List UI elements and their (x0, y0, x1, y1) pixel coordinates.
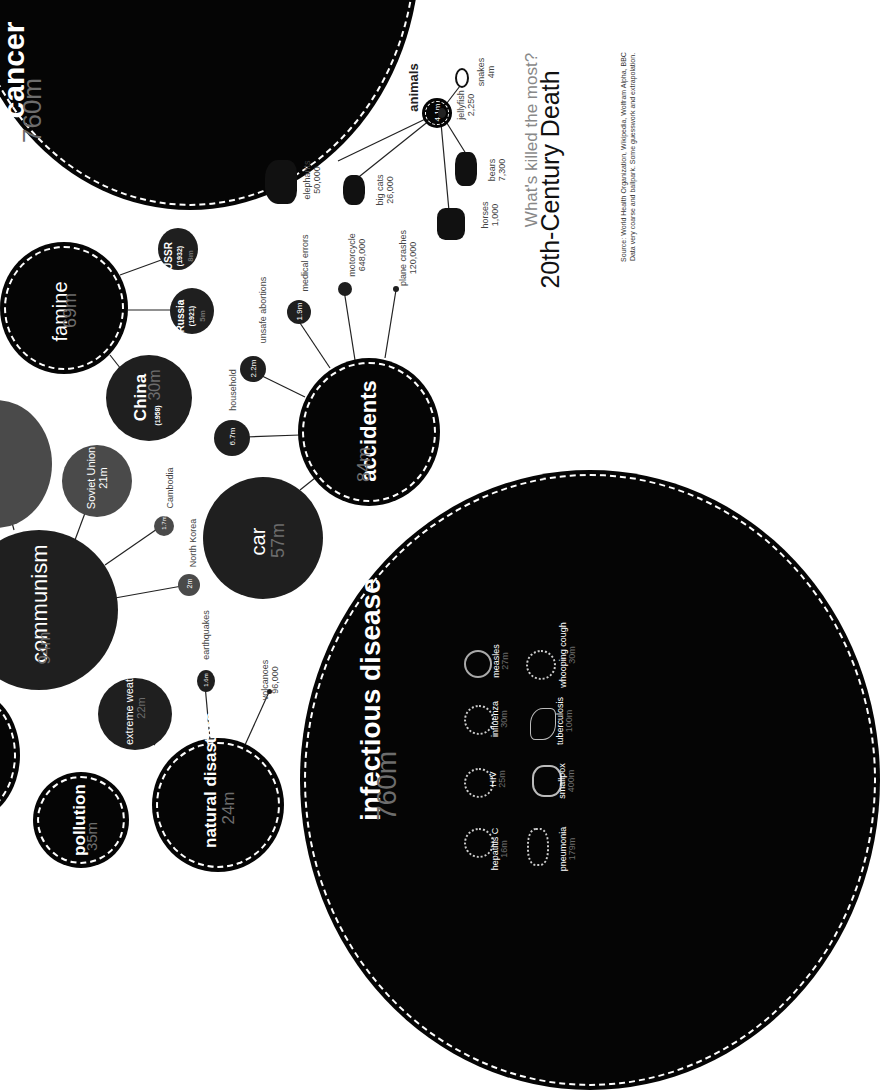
elephants-value: 50,000 (312, 166, 322, 194)
famine-russia-label: Russia (1921) 5m (176, 296, 208, 336)
famine-ussr-label: USSR (1932) 8m (164, 236, 196, 276)
ussr-name: USSR (163, 242, 174, 270)
pneumonia-label: pneumonia 179m (559, 819, 577, 879)
cancer-value: 760m (17, 61, 48, 161)
motorcycle-name: motorcycle (347, 233, 357, 277)
snakes-value: 4m (486, 66, 496, 79)
measles-value: 27m (500, 652, 510, 670)
animals-label: animals (406, 58, 421, 118)
china-value: 30m (146, 369, 163, 400)
pneumonia-value: 179m (567, 838, 577, 861)
elephants-label: elephants 50,000 (302, 150, 322, 210)
ussr-year: (1932) (176, 246, 183, 266)
big-cat-icon (343, 175, 365, 205)
whooping-cough-label: whooping cough 30m (559, 615, 577, 695)
china-year: (1958) (154, 405, 161, 425)
bigcats-label: big cats 26,000 (375, 160, 395, 220)
plane-value: 120,000 (408, 242, 418, 275)
natural-disasters-label: natural disasters 24m (202, 768, 238, 848)
medical-value: 1.9m (295, 296, 304, 328)
earthquakes-value: 1.6m (203, 665, 209, 695)
car-label: car (247, 512, 270, 572)
household-label: household (228, 360, 238, 420)
jellyfish-value: 2,250 (466, 94, 476, 117)
infectious-disease-value: 760m (371, 751, 403, 821)
bears-value: 7,300 (497, 159, 507, 182)
tuberculosis-value: 100m (564, 710, 574, 733)
measles-label: measles 27m (492, 636, 510, 686)
accidents-value: 84m (354, 445, 375, 485)
russia-value: 5m (198, 310, 207, 322)
extreme-weather-name: extreme weather (123, 663, 135, 745)
snakes-label: snakes 4m (476, 42, 496, 102)
household-value: 6.7m (228, 417, 237, 457)
jellyfish-icon (438, 108, 446, 118)
tuberculosis-bacteria-icon (530, 708, 556, 740)
extreme-weather-value: 22m (135, 697, 147, 718)
elephants-name: elephants (302, 160, 312, 199)
snake-icon (455, 68, 469, 88)
hiv-label: HIV 25m (489, 759, 507, 799)
jellyfish-name: jellyfish (456, 90, 466, 120)
communism-value: 94m (35, 628, 55, 668)
natural-disasters-name: natural disasters (201, 712, 220, 848)
cambodia-label: Cambodia (165, 458, 175, 518)
whooping-cough-value: 30m (567, 646, 577, 664)
tuberculosis-label: tuberculosis 100m (556, 686, 574, 756)
northkorea-label: North Korea (188, 513, 198, 573)
pneumonia-bacteria-icon (527, 828, 549, 866)
plane-label: plane crashes 120,000 (398, 223, 418, 293)
volcanoes-label: volcanoes 96,000 (260, 650, 280, 710)
measles-virus-icon (464, 650, 492, 678)
car-value: 57m (268, 511, 289, 571)
pollution-value: 35m (83, 807, 100, 867)
motorcycle-label: motorcycle 648,000 (347, 220, 367, 290)
influenza-label: influenza 30m (491, 694, 509, 744)
bigcats-name: big cats (375, 174, 385, 205)
whooping-cough-bacteria-icon (526, 650, 556, 680)
ussr-value: 8m (186, 250, 195, 262)
abortions-label: unsafe abortions (258, 265, 268, 355)
earthquakes-label: earthquakes (201, 605, 211, 665)
horses-name: horses (480, 202, 490, 229)
horses-value: 1,000 (490, 204, 500, 227)
source-note: Source: World Health Organization, Wikip… (619, 0, 637, 317)
bigcats-value: 26,000 (385, 176, 395, 204)
volcanoes-value: 96,000 (270, 666, 280, 694)
snakes-name: snakes (476, 58, 486, 87)
hepatitis-c-value: 16m (499, 840, 509, 858)
elephant-icon (265, 160, 297, 204)
motorcycle-value: 648,000 (357, 239, 367, 272)
source-line-2: Data very coarse and ballpark. Some gues… (629, 53, 636, 261)
page-subtitle: What's killed the most? (522, 40, 542, 240)
smallpox-value: 400m (566, 770, 576, 793)
plane-name: plane crashes (398, 230, 408, 286)
bears-label: bears 7,300 (487, 140, 507, 200)
influenza-value: 30m (499, 710, 509, 728)
abortions-value: 2.2m (249, 352, 258, 386)
russia-name: Russia (175, 300, 186, 333)
bear-icon (455, 152, 477, 186)
natural-disasters-value: 24m (219, 791, 238, 824)
famine-china-label: China (1958) 30m (134, 358, 165, 438)
russia-year: (1921) (188, 306, 195, 326)
northkorea-value: 2m (186, 569, 193, 599)
horse-icon (437, 208, 465, 240)
soviet-value: 21m (97, 467, 109, 488)
hepatitis-c-label: hepatitis C 16m (491, 819, 509, 879)
extreme-weather-label: extreme weather 22m (123, 671, 147, 745)
soviet-label: Soviet Union 21m (85, 441, 109, 515)
medical-label: medical errors (300, 228, 310, 298)
soviet-name: Soviet Union (85, 447, 97, 509)
famine-value: 69m (60, 281, 81, 341)
bears-name: bears (487, 159, 497, 182)
source-line-1: Source: World Health Organization, Wikip… (620, 52, 627, 262)
smallpox-label: smallpox 400m (558, 751, 576, 811)
hiv-value: 25m (497, 770, 507, 788)
volcanoes-name: volcanoes (260, 660, 270, 701)
